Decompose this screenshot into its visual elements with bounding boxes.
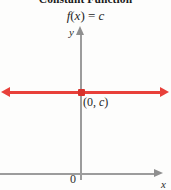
line-arrow-right-icon	[160, 87, 169, 97]
figure-title: Constant Function	[0, 0, 171, 5]
y-axis-arrow-icon	[76, 26, 84, 35]
constant-function-figure: Constant Function f(x) = c y x 0 (0, c)	[0, 0, 171, 190]
point-paren-close: )	[104, 95, 108, 109]
y-axis-line	[80, 33, 82, 180]
constant-function-line	[8, 91, 162, 94]
formula-constant: c	[99, 8, 105, 23]
x-axis-line	[0, 173, 156, 175]
x-axis-arrow-icon	[154, 169, 163, 177]
origin-label: 0	[70, 172, 76, 187]
x-axis-label: x	[161, 178, 166, 190]
function-formula: f(x) = c	[0, 8, 171, 24]
y-intercept-label: (0, c)	[83, 95, 108, 110]
y-axis-label: y	[69, 26, 74, 38]
